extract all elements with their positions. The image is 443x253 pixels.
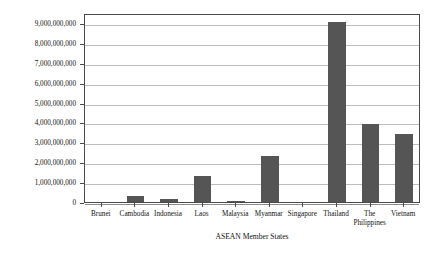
- x-tick-label: Brunei: [91, 210, 111, 219]
- bar: [127, 196, 144, 202]
- x-tick-label-line: Brunei: [91, 210, 111, 218]
- x-tick-label: Myanmar: [255, 210, 283, 219]
- y-tick-label: 9,000,000,000: [2, 20, 76, 28]
- x-tick-mark: [202, 203, 203, 207]
- bar: [362, 124, 379, 202]
- x-tick-mark: [370, 203, 371, 207]
- y-tick-label: 1,000,000,000: [2, 179, 76, 187]
- x-tick-label-line: Indonesia: [154, 210, 182, 218]
- x-tick-mark: [336, 203, 337, 207]
- x-tick-label-line: Philippines: [353, 219, 385, 228]
- x-tick-label: Indonesia: [154, 210, 182, 219]
- x-tick-label-line: The: [364, 210, 375, 218]
- x-tick-mark: [302, 203, 303, 207]
- bar: [194, 176, 211, 202]
- x-tick-label: Cambodia: [120, 210, 150, 219]
- x-tick-label-line: Vietnam: [391, 210, 415, 218]
- x-tick-label: Thailand: [323, 210, 349, 219]
- bar-chart-figure: Trade Value (USD) 01,000,000,0002,000,00…: [0, 0, 443, 253]
- x-tick-label: Malaysia: [222, 210, 248, 219]
- x-tick-mark: [168, 203, 169, 207]
- x-tick-label-line: Cambodia: [120, 210, 150, 218]
- x-tick-label: Laos: [195, 210, 209, 219]
- x-tick-label: Vietnam: [391, 210, 415, 219]
- x-tick-label: Singapore: [288, 210, 317, 219]
- bar: [395, 134, 412, 202]
- x-tick-mark: [101, 203, 102, 207]
- y-tick-label: 7,000,000,000: [2, 60, 76, 68]
- bar: [227, 201, 244, 202]
- x-tick-label-line: Laos: [195, 210, 209, 218]
- bar: [160, 199, 177, 202]
- y-tick-label: 8,000,000,000: [2, 40, 76, 48]
- y-tick-label: 6,000,000,000: [2, 80, 76, 88]
- bar: [328, 22, 345, 202]
- x-tick-mark: [403, 203, 404, 207]
- x-axis-title: ASEAN Member States: [84, 232, 420, 241]
- x-tick-mark: [134, 203, 135, 207]
- y-tick-label: 0: [2, 199, 76, 207]
- y-tick-label: 5,000,000,000: [2, 100, 76, 108]
- x-tick-label: ThePhilippines: [353, 210, 385, 228]
- bar-series: [85, 15, 419, 202]
- y-tick-label: 3,000,000,000: [2, 139, 76, 147]
- x-tick-mark: [269, 203, 270, 207]
- x-tick-label-line: Singapore: [288, 210, 317, 218]
- y-tick-label: 2,000,000,000: [2, 159, 76, 167]
- y-tick-label: 4,000,000,000: [2, 119, 76, 127]
- x-tick-label-line: Myanmar: [255, 210, 283, 218]
- plot-area: [84, 14, 420, 203]
- y-tick-mark: [80, 203, 84, 204]
- bar: [261, 156, 278, 202]
- x-tick-label-line: Malaysia: [222, 210, 248, 218]
- x-tick-label-line: Thailand: [323, 210, 349, 218]
- x-tick-mark: [235, 203, 236, 207]
